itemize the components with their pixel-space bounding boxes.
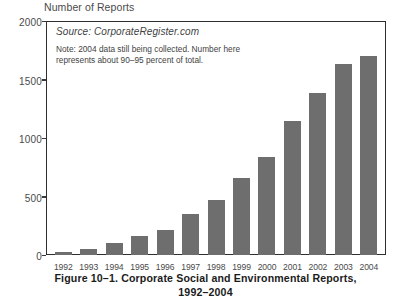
figure-caption: Figure 10–1. Corporate Social and Enviro… — [0, 272, 411, 300]
bar-2000[interactable] — [258, 157, 275, 255]
bar-slot — [127, 22, 152, 255]
y-tick-mark-2000 — [42, 21, 46, 23]
bar-slot — [331, 22, 356, 255]
y-tick-mark-0 — [42, 255, 46, 257]
x-tick-label-2003: 2003 — [334, 262, 353, 272]
figure-container: Number of Reports 2000 1500 1000 500 0 S… — [0, 0, 411, 300]
x-tick-label-1993: 1993 — [79, 262, 98, 272]
y-tick-label-1000: 1000 — [19, 134, 46, 145]
bar-2004[interactable] — [360, 56, 377, 255]
x-tick-label-1992: 1992 — [54, 262, 73, 272]
y-tick-500: 500 — [25, 190, 46, 204]
bar-1992[interactable] — [55, 252, 72, 255]
x-tick-label-2000: 2000 — [258, 262, 277, 272]
y-tick-label-2000: 2000 — [19, 17, 46, 28]
bar-1997[interactable] — [182, 214, 199, 255]
y-tick-1500: 1500 — [19, 73, 46, 87]
y-tick-mark-1000 — [42, 138, 46, 140]
y-tick-2000: 2000 — [19, 14, 46, 28]
y-tick-1000: 1000 — [19, 131, 46, 145]
y-axis: 2000 1500 1000 500 0 — [0, 14, 46, 262]
bar-slot — [254, 22, 279, 255]
bar-slot — [356, 22, 381, 255]
bar-series — [48, 22, 385, 255]
x-tick-label-1997: 1997 — [181, 262, 200, 272]
bar-1994[interactable] — [106, 243, 123, 255]
x-tick-label-2004: 2004 — [360, 262, 379, 272]
bar-1998[interactable] — [208, 200, 225, 255]
x-tick-label-2002: 2002 — [309, 262, 328, 272]
y-tick-0: 0 — [36, 248, 46, 262]
caption-line-1: Figure 10–1. Corporate Social and Enviro… — [0, 272, 411, 286]
x-tick-label-1998: 1998 — [207, 262, 226, 272]
bar-1995[interactable] — [131, 236, 148, 255]
y-axis-title: Number of Reports — [44, 1, 134, 13]
x-tick-label-2001: 2001 — [283, 262, 302, 272]
bar-slot — [101, 22, 126, 255]
y-tick-label-1500: 1500 — [19, 76, 46, 87]
y-tick-label-500: 500 — [25, 193, 46, 204]
x-tick-label-1995: 1995 — [130, 262, 149, 272]
y-tick-mark-500 — [42, 196, 46, 198]
y-tick-mark-1500 — [42, 79, 46, 81]
bar-slot — [76, 22, 101, 255]
bar-2003[interactable] — [335, 64, 352, 255]
x-tick-label-1999: 1999 — [232, 262, 251, 272]
bar-1999[interactable] — [233, 178, 250, 255]
x-tick-label-1994: 1994 — [105, 262, 124, 272]
bar-slot — [305, 22, 330, 255]
bar-1993[interactable] — [80, 249, 97, 255]
x-tick-label-1996: 1996 — [156, 262, 175, 272]
bar-2002[interactable] — [309, 93, 326, 255]
caption-line-2: 1992–2004 — [0, 286, 411, 300]
bar-slot — [178, 22, 203, 255]
bar-slot — [152, 22, 177, 255]
bar-slot — [203, 22, 228, 255]
bar-slot — [51, 22, 76, 255]
bar-slot — [229, 22, 254, 255]
bar-2001[interactable] — [284, 121, 301, 255]
y-tick-label-0: 0 — [36, 251, 46, 262]
bar-1996[interactable] — [157, 230, 174, 255]
bar-slot — [280, 22, 305, 255]
